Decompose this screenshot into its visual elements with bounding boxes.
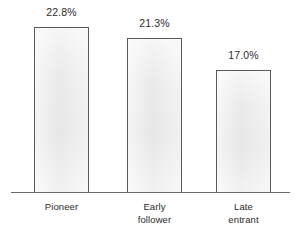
bar-pioneer[interactable] — [34, 27, 89, 193]
bar-value-label-late-entrant: 17.0% — [228, 49, 258, 61]
x-axis-label-late-entrant-line-2: entrant — [210, 214, 277, 227]
bar-early-follower[interactable] — [127, 38, 182, 193]
bar-chart: 22.8% 21.3% 17.0% Pioneer Early follower… — [0, 0, 301, 237]
plot-area: 22.8% 21.3% 17.0% — [0, 0, 301, 193]
x-axis-label-early-follower-line-2: follower — [121, 214, 188, 227]
x-axis-label-pioneer: Pioneer — [34, 201, 89, 214]
bar-value-label-pioneer: 22.8% — [46, 6, 76, 18]
x-axis-label-early-follower-line-1: Early — [121, 201, 188, 214]
bar-value-label-early-follower: 21.3% — [139, 17, 169, 29]
x-axis-label-late-entrant: Late entrant — [210, 201, 277, 226]
x-axis-label-late-entrant-line-1: Late — [210, 201, 277, 214]
bar-group-early-follower: 21.3% — [127, 38, 182, 193]
bar-group-pioneer: 22.8% — [34, 27, 89, 193]
x-axis-category-labels: Pioneer Early follower Late entrant — [0, 193, 301, 237]
bar-group-late-entrant: 17.0% — [216, 70, 271, 193]
x-axis-label-pioneer-line-1: Pioneer — [34, 201, 89, 214]
bar-late-entrant[interactable] — [216, 70, 271, 193]
x-axis-label-early-follower: Early follower — [121, 201, 188, 226]
